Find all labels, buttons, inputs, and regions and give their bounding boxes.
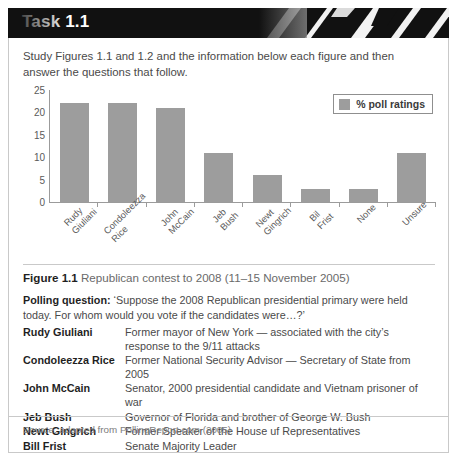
- legend-swatch-icon: [339, 99, 350, 110]
- bar-slot: [243, 90, 291, 202]
- task-content-box: Study Figures 1.1 and 1.2 and the inform…: [8, 38, 449, 453]
- candidate-name: Bill Frist: [23, 440, 125, 455]
- x-tick: [195, 202, 243, 207]
- y-tick-label: 15: [23, 129, 45, 140]
- bar-slot: [98, 90, 146, 202]
- content-divider: [23, 264, 435, 265]
- candidate-list: Rudy GiulianiFormer mayor of New York — …: [23, 326, 435, 454]
- candidate-name: Rudy Giuliani: [23, 326, 125, 354]
- header-stripe-decoration: [259, 8, 449, 38]
- chart-legend: % poll ratings: [333, 94, 433, 114]
- x-label-cell: RudyGiuliani: [49, 208, 97, 262]
- candidate-row: Rudy GiulianiFormer mayor of New York — …: [23, 326, 435, 354]
- x-tick-label: BilFrist: [308, 204, 336, 232]
- candidate-name: Condoleezza Rice: [23, 354, 125, 382]
- candidate-row: John McCainSenator, 2000 presidential ca…: [23, 382, 435, 410]
- bar-slot: [50, 90, 98, 202]
- candidate-row: Jeb BushGovernor of Florida and brother …: [23, 411, 435, 426]
- candidate-description: Senate Majority Leader: [125, 440, 435, 455]
- chart-bar: [204, 153, 233, 202]
- source-note: Source: adapted from PollingReport.com (…: [23, 424, 231, 435]
- x-label-cell: JebBush: [194, 208, 242, 262]
- candidate-description: Former National Security Advisor — Secre…: [125, 354, 435, 382]
- x-label-cell: JohnMcCain: [146, 208, 194, 262]
- x-label-cell: CondoleezzaRice: [97, 208, 145, 262]
- bar-slot: [195, 90, 243, 202]
- y-tick-label: 20: [23, 107, 45, 118]
- x-label-cell: BilFrist: [290, 208, 338, 262]
- candidate-description: Senator, 2000 presidential candidate and…: [125, 382, 435, 410]
- y-tick-label: 25: [23, 85, 45, 96]
- chart-bar: [349, 189, 378, 202]
- poll-bar-chart: 0510152025 RudyGiulianiCondoleezzaRiceJo…: [23, 90, 435, 262]
- x-label-cell: Unsure: [387, 208, 435, 262]
- y-tick-label: 10: [23, 152, 45, 163]
- y-tick-label: 5: [23, 174, 45, 185]
- legend-label: % poll ratings: [356, 98, 425, 110]
- candidate-row: Bill FristSenate Majority Leader: [23, 440, 435, 455]
- diagonal-stripes-icon: [259, 8, 449, 38]
- chart-bar: [301, 189, 330, 202]
- y-tick-label: 0: [23, 197, 45, 208]
- chart-y-axis-labels: 0510152025: [23, 90, 45, 202]
- chart-x-axis-labels: RudyGiulianiCondoleezzaRiceJohnMcCainJeb…: [49, 208, 435, 262]
- x-label-cell: NewtGingrich: [242, 208, 290, 262]
- bar-slot: [147, 90, 195, 202]
- polling-question-label: Polling question:: [23, 294, 111, 306]
- figure-label: Figure 1.1: [23, 271, 78, 284]
- x-tick: [340, 202, 388, 207]
- task-page: Task 1.1 Study Figures 1.1 and 1.2 and t…: [0, 0, 457, 461]
- source-divider: [9, 416, 448, 417]
- chart-x-ticks: [50, 202, 436, 207]
- candidate-list-body: Rudy GiulianiFormer mayor of New York — …: [23, 326, 435, 454]
- chart-bar: [397, 153, 426, 202]
- x-label-cell: None: [339, 208, 387, 262]
- polling-question: Polling question: ‘Suppose the 2008 Repu…: [23, 293, 429, 322]
- figure-caption: Figure 1.1 Republican contest to 2008 (1…: [23, 271, 435, 284]
- x-tick: [291, 202, 339, 207]
- candidate-row: Condoleezza RiceFormer National Security…: [23, 354, 435, 382]
- candidate-description: Former mayor of New York — associated wi…: [125, 326, 435, 354]
- candidate-name: Jeb Bush: [23, 411, 125, 426]
- chart-bar: [156, 108, 185, 202]
- candidate-description: Governor of Florida and brother of Georg…: [125, 411, 435, 426]
- chart-bar: [60, 103, 89, 202]
- figure-caption-text: Republican contest to 2008 (11–15 Novemb…: [81, 271, 350, 284]
- candidate-name: John McCain: [23, 382, 125, 410]
- task-header: Task 1.1: [8, 8, 449, 38]
- intro-text: Study Figures 1.1 and 1.2 and the inform…: [23, 48, 431, 80]
- header-stripe-fade: [8, 8, 68, 38]
- chart-bar: [108, 103, 137, 202]
